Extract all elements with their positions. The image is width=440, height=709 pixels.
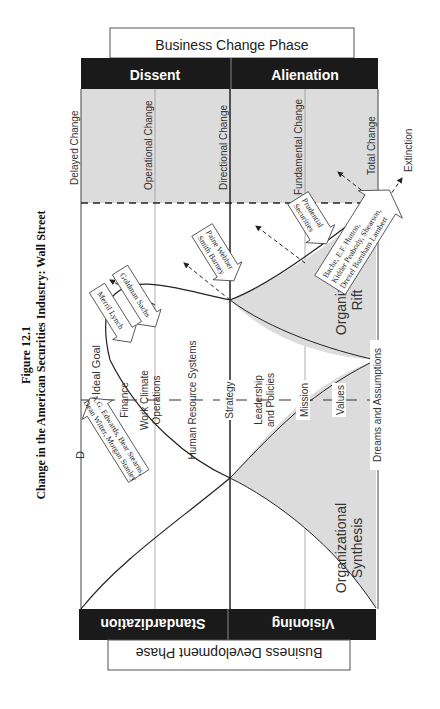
bell-curve [81,284,230,609]
alienation-header: Alienation [271,67,339,83]
level-mission: Mission [299,383,310,417]
level-values: Values [335,385,346,415]
change-diagram: Figure 12.1 Change in the American Secur… [0,0,440,709]
synthesis-label-line2: Synthesis [349,518,365,579]
arrow-from-fundamental [256,226,305,263]
visioning-header: Visioning [272,616,335,632]
level-operations: Operations [151,376,162,425]
business-change-phase-title: Business Change Phase [155,37,309,53]
level-finance: Finance [119,382,130,418]
standardization-header: Standardization [100,616,205,632]
label-total-change: Total Change [366,116,377,175]
figure-number: Figure 12.1 [19,326,33,384]
level-human-resource-systems: Human Resource Systems [187,341,198,460]
rift-label-line2: Rift [349,289,365,310]
label-fundamental-change: Fundamental Change [293,98,304,195]
figure-caption: Change in the American Securities Indust… [34,210,48,499]
dissent-header: Dissent [130,67,181,83]
ideal-goal-marker: D [74,451,86,459]
figure-title: Figure 12.1 Change in the American Secur… [19,210,48,499]
extinction-label: Extinction [403,129,414,172]
callout-paine-webber: Paine Webber Smith Barney [188,221,249,290]
label-delayed-change: Delayed Change [69,110,80,185]
level-work-climate: Work Climate [139,370,150,430]
business-development-phase-title: Business Development Phase [135,645,322,661]
label-directional-change: Directional Change [218,105,229,190]
level-strategy: Strategy [224,381,235,418]
level-and-policies: and Policies [265,373,276,427]
ideal-goal-label: Ideal Goal [90,345,102,395]
label-operational-change: Operational Change [143,100,154,190]
level-dreams-and-assumptions: Dreams and Assumptions [372,348,383,462]
synthesis-label-line1: Organizational [333,503,349,593]
level-leadership: Leadership [253,375,264,425]
